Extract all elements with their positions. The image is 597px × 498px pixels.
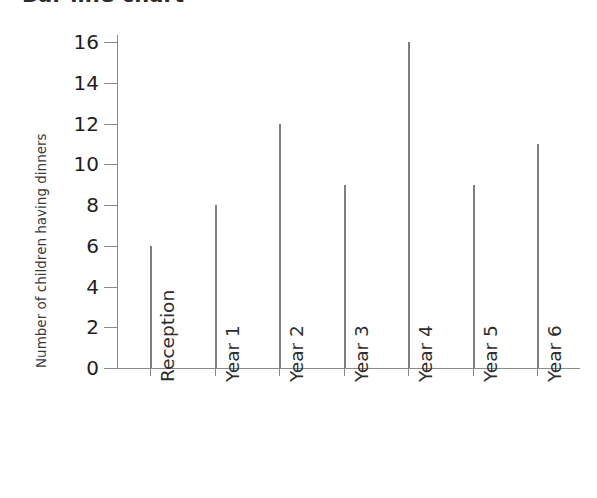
y-tick-mark xyxy=(104,42,117,43)
plot-area: 0246810121416 ReceptionYear 1Year 2Year … xyxy=(0,0,597,498)
x-tick-label: Year 4 xyxy=(415,325,436,382)
y-tick-label: 10 xyxy=(55,152,99,176)
x-tick-mark xyxy=(537,368,538,376)
bar-line xyxy=(279,124,281,369)
y-axis-line xyxy=(117,35,118,368)
x-tick-label: Reception xyxy=(157,290,178,382)
x-axis-line xyxy=(117,368,580,369)
x-tick-label: Year 2 xyxy=(286,325,307,382)
x-tick-mark xyxy=(150,368,151,376)
y-tick-label: 4 xyxy=(55,275,99,299)
x-tick-mark xyxy=(279,368,280,376)
x-tick-mark xyxy=(473,368,474,376)
x-tick-mark xyxy=(408,368,409,376)
y-tick-mark xyxy=(104,368,117,369)
chart-page: Bar line chart Number of children having… xyxy=(0,0,597,498)
y-tick-label: 2 xyxy=(55,315,99,339)
x-tick-label: Year 3 xyxy=(351,325,372,382)
y-tick-mark xyxy=(104,246,117,247)
y-tick-mark xyxy=(104,164,117,165)
y-tick-mark xyxy=(104,327,117,328)
bar-line xyxy=(150,246,152,368)
bar-line xyxy=(473,185,475,368)
x-tick-label: Year 1 xyxy=(222,325,243,382)
y-tick-label: 12 xyxy=(55,112,99,136)
bar-line xyxy=(408,42,410,368)
bar-line xyxy=(344,185,346,368)
y-tick-label: 8 xyxy=(55,193,99,217)
y-tick-label: 16 xyxy=(55,30,99,54)
y-tick-mark xyxy=(104,124,117,125)
y-tick-mark xyxy=(104,83,117,84)
x-tick-mark xyxy=(344,368,345,376)
x-tick-label: Year 5 xyxy=(480,325,501,382)
x-tick-label: Year 6 xyxy=(544,325,565,382)
y-tick-label: 14 xyxy=(55,71,99,95)
y-tick-label: 0 xyxy=(55,356,99,380)
x-tick-mark xyxy=(215,368,216,376)
y-tick-mark xyxy=(104,205,117,206)
y-tick-mark xyxy=(104,287,117,288)
bar-line xyxy=(537,144,539,368)
bar-line xyxy=(215,205,217,368)
y-tick-label: 6 xyxy=(55,234,99,258)
